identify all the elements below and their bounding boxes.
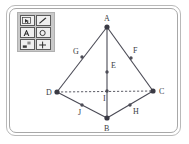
edge-AD bbox=[57, 27, 107, 92]
point-label-A: A bbox=[104, 14, 110, 23]
point-label-I: I bbox=[103, 94, 106, 103]
circle-icon bbox=[38, 29, 49, 37]
select-tool-button[interactable] bbox=[20, 15, 35, 26]
figure-point-labels: ABCDEFGHIJ bbox=[46, 14, 164, 133]
vertex-C[interactable] bbox=[150, 88, 155, 93]
point-label-B: B bbox=[104, 124, 109, 133]
ellipse-tool-button[interactable] bbox=[36, 27, 51, 38]
toolbar-row bbox=[20, 39, 54, 50]
move-cross-icon bbox=[38, 41, 49, 49]
vertex-A[interactable] bbox=[104, 24, 109, 29]
point-label-D: D bbox=[46, 88, 52, 97]
vertex-D[interactable] bbox=[54, 89, 59, 94]
vertex-G[interactable] bbox=[80, 55, 83, 58]
toolbar-row bbox=[20, 27, 54, 38]
text-a-icon bbox=[22, 29, 33, 37]
vertex-E[interactable] bbox=[105, 70, 108, 73]
eraser-icon bbox=[22, 41, 33, 49]
point-label-G: G bbox=[73, 47, 79, 56]
pencil-icon bbox=[38, 17, 49, 25]
vertex-I[interactable] bbox=[105, 89, 108, 92]
point-label-C: C bbox=[159, 87, 164, 96]
vertex-B[interactable] bbox=[104, 115, 109, 120]
app-window: ABCDEFGHIJ bbox=[0, 0, 189, 144]
toolbar-row bbox=[20, 15, 54, 26]
vertex-F[interactable] bbox=[129, 56, 132, 59]
vertex-H[interactable] bbox=[128, 103, 131, 106]
point-label-F: F bbox=[133, 46, 138, 55]
edge-DC bbox=[57, 91, 153, 92]
text-tool-button[interactable] bbox=[20, 27, 35, 38]
drawing-tools-palette[interactable] bbox=[17, 12, 55, 52]
point-label-H: H bbox=[133, 107, 139, 116]
select-arrow-icon bbox=[22, 17, 33, 25]
eraser-tool-button[interactable] bbox=[20, 39, 35, 50]
vertex-J[interactable] bbox=[80, 103, 83, 106]
point-label-E: E bbox=[111, 61, 116, 70]
move-tool-button[interactable] bbox=[36, 39, 51, 50]
point-label-J: J bbox=[78, 108, 81, 117]
figure-edges bbox=[57, 27, 153, 118]
pencil-tool-button[interactable] bbox=[36, 15, 51, 26]
figure-vertices bbox=[54, 24, 155, 120]
